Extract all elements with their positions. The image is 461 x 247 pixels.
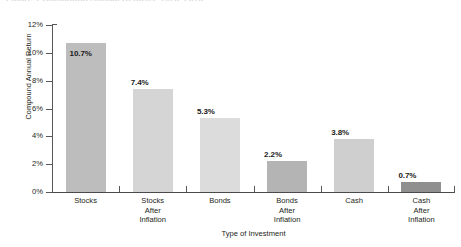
y-axis-tick-label: 8% xyxy=(0,77,43,85)
y-axis-tick-label: 12% xyxy=(0,21,43,29)
bar-value-label: 7.4% xyxy=(131,78,149,87)
bar xyxy=(267,161,307,192)
x-axis-title: Type of Investment xyxy=(52,229,455,238)
figure-caption: Figure 1 Compound Annual Returns, 1926–2… xyxy=(6,0,203,1)
y-axis-tick-label: 2% xyxy=(0,160,43,168)
bar-value-label: 5.3% xyxy=(197,107,215,116)
bar xyxy=(401,182,441,192)
bar xyxy=(334,139,374,192)
y-axis-tick-label: 6% xyxy=(0,105,43,113)
bar xyxy=(133,89,173,192)
y-axis-tick-label: 10% xyxy=(0,49,43,57)
bar-value-label: 3.8% xyxy=(331,128,349,137)
bar-value-label: 2.2% xyxy=(264,150,282,159)
bar xyxy=(66,43,106,192)
bar-value-label: 0.7% xyxy=(398,171,416,180)
y-axis-tick-label: 4% xyxy=(0,132,43,140)
bar xyxy=(200,118,240,192)
y-axis-tick xyxy=(46,192,52,193)
y-axis-tick-label: 0% xyxy=(0,188,43,196)
x-axis-line xyxy=(52,192,455,193)
plot-area xyxy=(52,25,455,192)
bar-value-label: 10.7% xyxy=(70,49,92,58)
x-axis-category-label: Cash After Inflation xyxy=(382,196,461,225)
compound-annual-return-bar-chart: Figure 1 Compound Annual Returns, 1926–2… xyxy=(0,0,461,247)
